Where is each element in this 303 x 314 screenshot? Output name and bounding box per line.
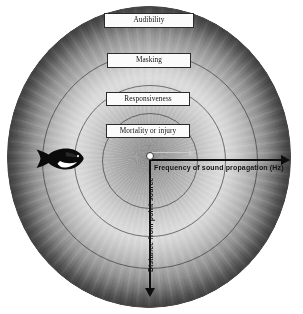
propagation-arrow-head (189, 150, 194, 156)
propagation-arrow-line (152, 152, 190, 153)
fish-icon (31, 143, 87, 176)
frequency-axis-label: Frequency of sound propagation (Hz) (154, 163, 284, 172)
point-source-marker (146, 152, 154, 160)
sound-propagation-diagram: Audibility Masking Responsiveness Mortal… (0, 0, 303, 314)
distance-axis-arrowhead (145, 288, 155, 297)
zone-label-masking: Masking (107, 53, 191, 68)
zone-label-responsiveness: Responsiveness (106, 92, 190, 106)
zone-label-mortality: Mortality or injury (106, 124, 190, 138)
distance-axis-label: Distance from point source (146, 177, 155, 272)
frequency-axis-line (150, 159, 282, 161)
zone-label-audibility: Audibility (104, 13, 194, 28)
